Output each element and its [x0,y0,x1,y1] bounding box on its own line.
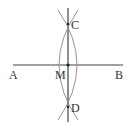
diagram-canvas: A B M C D [0,0,131,125]
point-d [67,106,69,108]
label-d: D [71,102,80,114]
point-m [66,63,69,66]
construction-figure [0,0,131,125]
label-b: B [115,69,123,81]
label-m: M [55,69,66,81]
point-c [67,23,69,25]
label-a: A [9,69,18,81]
label-c: C [71,19,79,31]
